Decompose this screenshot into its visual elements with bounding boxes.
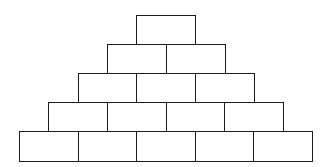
pyramid-brick (19, 131, 79, 162)
pyramid-brick (78, 73, 138, 104)
brick-pyramid (0, 0, 329, 167)
pyramid-brick (136, 73, 196, 104)
pyramid-brick (253, 131, 313, 162)
pyramid-brick (195, 73, 255, 104)
pyramid-brick (166, 44, 226, 75)
pyramid-brick (224, 102, 284, 133)
pyramid-brick (136, 15, 196, 46)
pyramid-brick (107, 44, 167, 75)
pyramid-brick (78, 131, 138, 162)
pyramid-brick (48, 102, 108, 133)
pyramid-brick (107, 102, 167, 133)
pyramid-brick (136, 131, 196, 162)
pyramid-brick (166, 102, 226, 133)
pyramid-brick (195, 131, 255, 162)
